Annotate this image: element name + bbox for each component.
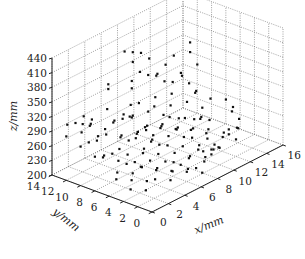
floor-grid-line xyxy=(134,133,234,170)
z-tick-label: 320 xyxy=(27,111,47,123)
data-point xyxy=(183,136,185,138)
x-tick-mark xyxy=(201,187,204,188)
data-point xyxy=(210,153,212,155)
y-tick-mark xyxy=(63,180,66,182)
data-point xyxy=(149,160,151,162)
data-point xyxy=(210,148,212,150)
data-point xyxy=(148,57,150,59)
plot-area: 0246810121416 02468101214 20023026029032… xyxy=(0,0,305,259)
data-point xyxy=(201,172,203,174)
data-point xyxy=(159,127,161,129)
x-tick-mark xyxy=(152,212,155,213)
data-point xyxy=(200,116,202,118)
data-point xyxy=(152,134,154,136)
floor-grid-line xyxy=(85,158,185,195)
data-point xyxy=(237,127,239,129)
data-point xyxy=(223,132,225,134)
data-point xyxy=(173,161,175,163)
z-tick-label: 260 xyxy=(27,140,47,152)
data-point xyxy=(180,72,182,74)
y-axis-label: y/mm xyxy=(49,205,82,235)
data-point xyxy=(180,164,182,166)
data-point xyxy=(66,124,68,126)
side-wall-grid-line xyxy=(183,50,283,87)
data-point xyxy=(164,160,166,162)
y-tick-label: 2 xyxy=(119,212,126,224)
x-tick-labels: 0246810121416 xyxy=(160,149,301,228)
data-point xyxy=(187,168,189,170)
data-point xyxy=(157,153,159,155)
data-point xyxy=(194,92,196,94)
data-point xyxy=(132,51,134,53)
data-point xyxy=(154,96,156,98)
side-wall-grid-line xyxy=(183,108,283,145)
data-point xyxy=(203,160,205,162)
data-point xyxy=(151,139,153,141)
back-wall-grid-line xyxy=(52,35,183,102)
floor-grid-line xyxy=(150,125,250,162)
floor-grid-line xyxy=(101,150,201,187)
z-tick-mark xyxy=(49,175,52,176)
data-point xyxy=(212,148,214,150)
data-point xyxy=(126,163,128,165)
x-tick-label: 12 xyxy=(255,166,268,178)
data-point xyxy=(208,119,210,121)
y-tick-label: 0 xyxy=(133,217,140,229)
data-point xyxy=(118,148,120,150)
y-tick-label: 14 xyxy=(27,180,41,192)
data-point xyxy=(134,161,136,163)
z-tick-label: 440 xyxy=(27,52,47,64)
data-point xyxy=(116,171,118,173)
y-tick-label: 12 xyxy=(41,185,54,197)
y-tick-mark xyxy=(120,201,123,203)
data-point xyxy=(156,73,158,75)
data-point xyxy=(102,156,104,158)
data-point xyxy=(217,146,219,148)
y-tick-mark xyxy=(149,212,152,214)
z-tick-label: 290 xyxy=(27,125,47,137)
data-point xyxy=(94,156,96,158)
data-point xyxy=(160,125,162,127)
data-point xyxy=(156,167,158,169)
data-point xyxy=(112,121,114,123)
y-tick-mark xyxy=(134,207,137,209)
x-tick-label: 14 xyxy=(271,158,285,170)
data-point xyxy=(131,80,133,82)
data-point xyxy=(225,98,227,100)
side-wall-grid-line xyxy=(183,20,283,57)
data-point xyxy=(207,128,209,130)
data-point xyxy=(161,123,163,125)
data-point xyxy=(174,152,176,154)
data-point xyxy=(136,133,138,135)
data-point xyxy=(130,104,132,106)
data-point xyxy=(173,55,175,57)
data-point xyxy=(146,125,148,127)
data-point xyxy=(193,118,195,120)
data-point xyxy=(81,131,83,133)
data-point xyxy=(238,118,240,120)
back-wall-grid-line xyxy=(52,79,183,146)
data-point xyxy=(119,136,121,138)
data-point xyxy=(135,137,137,139)
data-point xyxy=(145,129,147,131)
data-point xyxy=(166,144,168,146)
scatter-3d-chart: 0246810121416 02468101214 20023026029032… xyxy=(0,0,305,259)
data-point xyxy=(111,153,113,155)
data-point xyxy=(107,88,109,90)
data-point xyxy=(178,117,180,119)
data-point xyxy=(139,71,141,73)
data-point xyxy=(91,118,93,120)
data-point xyxy=(65,135,67,137)
data-point xyxy=(140,52,142,54)
data-point xyxy=(213,144,215,146)
y-tick-mark xyxy=(77,186,80,188)
data-point xyxy=(206,138,208,140)
data-point xyxy=(131,116,133,118)
data-point xyxy=(144,126,146,128)
data-point xyxy=(165,64,167,66)
data-point xyxy=(155,169,157,171)
data-points xyxy=(65,41,240,191)
data-point xyxy=(199,118,201,120)
data-point xyxy=(170,170,172,172)
data-point xyxy=(202,150,204,152)
